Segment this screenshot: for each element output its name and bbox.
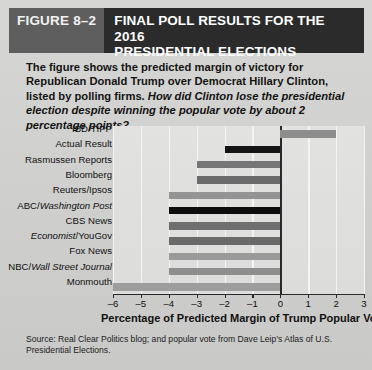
gridline: [141, 126, 142, 294]
x-axis-tick-label: 1: [306, 298, 311, 309]
bar: [197, 176, 281, 184]
x-axis-tick-label: –1: [247, 298, 258, 309]
zero-axis-line: [280, 126, 281, 294]
x-axis-tick-label: 3: [361, 298, 366, 309]
source-note: Source: Real Clear Politics blog; and po…: [26, 334, 356, 355]
gridline: [364, 126, 365, 294]
x-axis-tick: [225, 294, 226, 298]
figure-header-band: FIGURE 8–2 FINAL POLL RESULTS FOR THE 20…: [9, 8, 364, 53]
category-label: Fox News: [8, 245, 112, 256]
category-label: Monmouth: [8, 276, 112, 287]
x-axis-tick: [141, 294, 142, 298]
x-axis-tick-label: –4: [163, 298, 174, 309]
x-axis-tick-label: –2: [219, 298, 230, 309]
bar: [169, 253, 281, 261]
x-axis-line: [113, 294, 364, 295]
category-label: NBC/Wall Street Journal: [8, 261, 112, 272]
x-axis-tick: [364, 294, 365, 298]
category-label: IBD/TIPP: [8, 123, 112, 134]
x-axis-tick: [308, 294, 309, 298]
bar: [113, 283, 280, 291]
x-axis-tick: [197, 294, 198, 298]
bar: [280, 130, 336, 138]
figure-caption: The figure shows the predicted margin of…: [26, 60, 352, 132]
category-label: Reuters/Ipsos: [8, 184, 112, 195]
x-axis-tick: [113, 294, 114, 298]
bar: [169, 237, 281, 245]
category-label: CBS News: [8, 215, 112, 226]
bar: [169, 268, 281, 276]
x-axis-tick: [280, 294, 281, 298]
category-axis-labels: IBD/TIPPActual ResultRasmussen ReportsBl…: [8, 126, 112, 294]
x-axis-tick-label: –5: [136, 298, 147, 309]
category-label: ABC/Washington Post: [8, 200, 112, 211]
x-axis-tick: [169, 294, 170, 298]
x-axis-tick-label: –3: [191, 298, 202, 309]
bar: [197, 161, 281, 169]
x-axis-tick-label: 2: [333, 298, 338, 309]
x-axis-tick: [252, 294, 253, 298]
bar: [169, 222, 281, 230]
category-label: Economist/YouGov: [8, 230, 112, 241]
bar: [169, 192, 281, 200]
gridline: [113, 126, 114, 294]
figure-card: FIGURE 8–2 FINAL POLL RESULTS FOR THE 20…: [0, 0, 372, 370]
bar-chart: IBD/TIPPActual ResultRasmussen ReportsBl…: [8, 126, 364, 308]
x-axis-tick-label: 0: [278, 298, 283, 309]
bar: [169, 207, 281, 215]
figure-title: FINAL POLL RESULTS FOR THE 2016 PRESIDEN…: [104, 8, 364, 53]
category-label: Rasmussen Reports: [8, 154, 112, 165]
x-axis-tick: [336, 294, 337, 298]
bar: [225, 146, 281, 154]
x-axis-title: Percentage of Predicted Margin of Trump …: [101, 312, 352, 324]
x-axis-tick-label: –6: [108, 298, 119, 309]
figure-number-tag: FIGURE 8–2: [9, 8, 104, 53]
gridline: [336, 126, 337, 294]
plot-area: [113, 126, 364, 294]
gridline: [308, 126, 309, 294]
category-label: Bloomberg: [8, 169, 112, 180]
category-label: Actual Result: [8, 138, 112, 149]
